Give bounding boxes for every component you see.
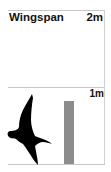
flying-bird-icon	[4, 92, 56, 166]
card-title: Wingspan	[9, 12, 64, 24]
wingspan-card: Wingspan 2m 1m	[0, 0, 111, 172]
scale-mid-label: 1m	[90, 89, 104, 99]
scale-max-label: 2m	[86, 12, 103, 24]
wingspan-bar	[64, 101, 74, 164]
